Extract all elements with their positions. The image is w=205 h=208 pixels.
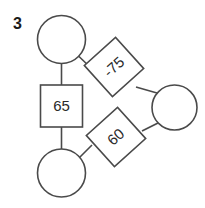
square-65-value: 65 [53, 97, 70, 114]
node-square-65[interactable]: 65 [41, 85, 83, 127]
circle-shape [38, 149, 86, 197]
circle-shape [152, 85, 197, 130]
node-diamond-75[interactable]: -75 [84, 37, 143, 96]
node-diamond-60[interactable]: 60 [86, 107, 145, 166]
edge-diamond75-to-right-circle [136, 87, 157, 93]
node-circle-bottom[interactable] [38, 149, 86, 197]
circle-shape [38, 16, 86, 64]
node-circle-right[interactable] [152, 85, 197, 130]
edge-right-circle-to-diamond60 [142, 123, 158, 131]
problem-number: 3 [13, 15, 22, 32]
diagram-canvas: 65 -75 60 3 [0, 0, 205, 208]
math-puzzle-diagram: 65 -75 60 3 [0, 0, 205, 208]
node-circle-top[interactable] [38, 16, 86, 64]
edge-diamond60-to-bottom-circle [79, 145, 92, 158]
